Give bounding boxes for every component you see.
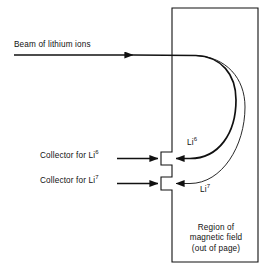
collector-li6-superscript: 6 — [95, 149, 99, 155]
region-label-line-3: (out of page) — [176, 244, 256, 254]
magnetic-field-region-label: Region of magnetic field (out of page) — [176, 223, 256, 254]
collector-li7-label-text: Collector for Li — [40, 176, 95, 185]
beam-label: Beam of lithium ions — [14, 40, 91, 50]
trajectory-li7-superscript: 7 — [207, 183, 211, 189]
collector-li6-label: Collector for Li6 — [40, 151, 99, 161]
collector-li6-label-text: Collector for Li — [40, 151, 95, 160]
isotope-separator-diagram: Beam of lithium ions Collector for Li6 C… — [0, 0, 265, 270]
beam-line-continuation — [133, 55, 196, 56]
trajectory-li7-label-text: Li — [200, 185, 207, 194]
region-label-line-1: Region of — [176, 223, 256, 233]
trajectory-li6-superscript: 6 — [194, 136, 198, 142]
trajectory-li7-label: Li7 — [200, 185, 210, 195]
collector-li7-superscript: 7 — [95, 174, 99, 180]
region-label-line-2: magnetic field — [176, 233, 256, 243]
trajectory-li6-label: Li6 — [187, 138, 197, 148]
trajectory-li6-label-text: Li — [187, 138, 194, 147]
trajectory-li6-path — [176, 56, 236, 159]
collector-li7-label: Collector for Li7 — [40, 176, 99, 186]
